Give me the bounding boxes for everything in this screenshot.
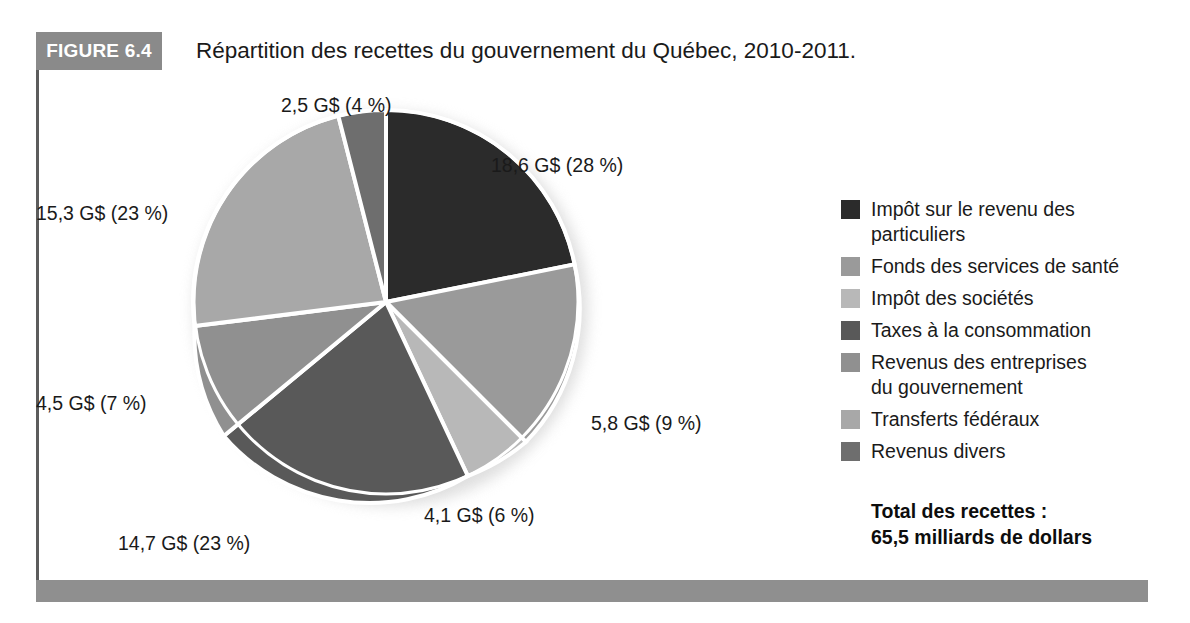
legend-swatch-icon [841,321,860,340]
chart-area: 2,5 G$ (4 %) 18,6 G$ (28 %) 5,8 G$ (9 %)… [36,72,1148,578]
callout-revenus-divers: 2,5 G$ (4 %) [281,94,392,117]
legend-item[interactable]: Impôt des sociétés [841,286,1151,311]
legend-item[interactable]: Revenus divers [841,439,1151,464]
figure-title: Répartition des recettes du gouvernement… [162,32,1148,70]
total-recettes: Total des recettes : 65,5 milliards de d… [871,498,1151,550]
legend-item-label: Fonds des services de santé [871,254,1119,279]
callout-revenus-entreprises: 4,5 G$ (7 %) [36,392,147,415]
legend-item-label: Impôt sur le revenu des particuliers [871,197,1151,247]
legend-item-label: Transferts fédéraux [871,407,1039,432]
legend-swatch-icon [841,289,860,308]
callout-fonds-services-sante: 5,8 G$ (9 %) [591,412,702,435]
figure-header: FIGURE 6.4 Répartition des recettes du g… [36,32,1148,70]
figure-bottom-bar [36,580,1148,602]
legend-item-label: Revenus divers [871,439,1005,464]
callout-impot-societes: 4,1 G$ (6 %) [424,504,535,527]
legend-item-label-line2: du gouvernement [871,375,1087,400]
total-label: Total des recettes : [871,498,1151,524]
legend-item-label: Taxes à la consommation [871,318,1091,343]
legend-item[interactable]: Fonds des services de santé [841,254,1151,279]
total-value: 65,5 milliards de dollars [871,524,1151,550]
legend-swatch-icon [841,442,860,461]
legend-item[interactable]: Transferts fédéraux [841,407,1151,432]
callout-transferts-federaux: 15,3 G$ (23 %) [36,202,168,225]
callout-impot-revenu-particuliers: 18,6 G$ (28 %) [491,154,623,177]
figure-container: FIGURE 6.4 Répartition des recettes du g… [0,0,1190,623]
legend-item-label-line1: Revenus des entreprises [871,351,1087,373]
callout-taxes-consommation: 14,7 G$ (23 %) [118,532,250,555]
legend-item[interactable]: Impôt sur le revenu des particuliers [841,197,1151,247]
figure-number-badge: FIGURE 6.4 [36,32,162,70]
legend-item[interactable]: Revenus des entreprises du gouvernement [841,350,1151,400]
legend-swatch-icon [841,200,860,219]
legend-item-label: Revenus des entreprises du gouvernement [871,350,1087,400]
legend-swatch-icon [841,410,860,429]
legend-item[interactable]: Taxes à la consommation [841,318,1151,343]
legend-swatch-icon [841,257,860,276]
chart-legend: Impôt sur le revenu des particuliers Fon… [841,197,1151,550]
legend-swatch-icon [841,353,860,372]
legend-item-label: Impôt des sociétés [871,286,1034,311]
